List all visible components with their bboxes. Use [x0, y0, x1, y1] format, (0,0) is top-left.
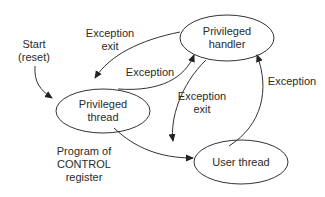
start-label: Start (reset) — [14, 38, 54, 64]
transition-label-thread-to-handler: Exception — [122, 66, 178, 79]
state-label-user-thread: User thread — [201, 156, 281, 169]
state-label-privileged-handler: Privileged handler — [195, 25, 259, 51]
transition-label-handler-to-thread: Exception exit — [80, 27, 140, 53]
transition-thread-to-user-control — [114, 128, 193, 158]
transition-label-control-register: Program of CONTROL register — [52, 145, 116, 184]
start-arrow — [35, 66, 52, 98]
state-diagram: Privileged handler Privileged thread Use… — [0, 0, 325, 197]
state-label-privileged-thread: Privileged thread — [71, 98, 135, 124]
transition-user-to-handler-exception — [229, 55, 263, 146]
transition-label-handler-to-user: Exception exit — [173, 90, 231, 116]
transition-label-user-to-handler: Exception — [264, 75, 320, 88]
